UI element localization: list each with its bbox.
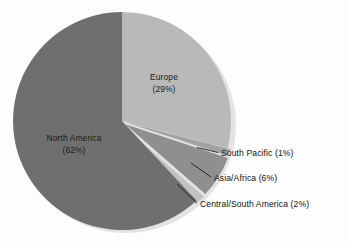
pie-chart: Europe (29%) North America (62%) South P… bbox=[0, 0, 348, 245]
slice-label-europe-percent: (29%) bbox=[152, 84, 175, 94]
callout-label-central-south-america: Central/South America (2%) bbox=[200, 199, 309, 209]
slice-label-north-america-percent: (62%) bbox=[62, 145, 85, 155]
slice-label-north-america-name: North America bbox=[46, 133, 101, 143]
callout-label-asia-africa: Asia/Africa (6%) bbox=[214, 173, 277, 183]
slice-label-europe-name: Europe bbox=[150, 72, 178, 82]
callout-label-south-pacific: South Pacific (1%) bbox=[221, 148, 294, 158]
pie-chart-svg: Europe (29%) North America (62%) South P… bbox=[0, 0, 348, 245]
